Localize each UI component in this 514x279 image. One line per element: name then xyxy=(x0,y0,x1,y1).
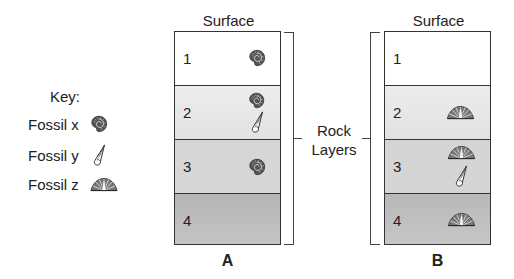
column-a-label: A xyxy=(174,252,281,270)
bracket-b xyxy=(370,32,380,245)
key-item-fossil-y: Fossil y xyxy=(28,145,106,165)
ammonite-icon xyxy=(248,158,266,176)
layer-2: 2 xyxy=(385,85,490,139)
key-item-fossil-x: Fossil x xyxy=(28,114,108,134)
key-title: Key: xyxy=(50,88,80,105)
rock-layers-label: Rock Layers xyxy=(304,121,364,159)
layer-number: 3 xyxy=(393,158,401,175)
fan-shell-icon xyxy=(447,145,476,160)
rock-label-line1: Rock xyxy=(304,121,364,140)
rock-column-b: 1 2 3 4 xyxy=(384,31,491,245)
layer-3: 3 xyxy=(385,139,490,193)
layer-4: 4 xyxy=(175,193,280,244)
layer-number: 4 xyxy=(183,212,191,229)
layer-number: 2 xyxy=(393,104,401,121)
column-a-surface-label: Surface xyxy=(175,12,282,29)
layer-number: 1 xyxy=(393,50,401,67)
bracket-a-tick xyxy=(294,138,302,139)
rock-label-line2: Layers xyxy=(304,140,364,159)
layer-4: 4 xyxy=(385,193,490,244)
layer-number: 3 xyxy=(183,158,191,175)
layer-number: 2 xyxy=(183,104,191,121)
bracket-b-tick xyxy=(362,138,370,139)
layer-1: 1 xyxy=(175,32,280,85)
key-item-fossil-z: Fossil z xyxy=(28,174,118,194)
ammonite-icon xyxy=(90,115,108,133)
key-label: Fossil x xyxy=(28,116,90,133)
layer-number: 4 xyxy=(393,212,401,229)
key-label: Fossil z xyxy=(28,176,90,193)
key-label: Fossil y xyxy=(28,147,90,164)
layer-number: 1 xyxy=(183,50,191,67)
fan-shell-icon xyxy=(447,212,476,227)
fan-shell-icon xyxy=(90,177,118,192)
rock-column-a: 1 2 3 4 xyxy=(174,31,281,245)
column-b-surface-label: Surface xyxy=(385,12,492,29)
cone-shell-icon xyxy=(251,111,264,133)
fan-shell-icon xyxy=(446,105,475,120)
bracket-a xyxy=(284,32,294,245)
ammonite-icon xyxy=(248,92,265,109)
layer-3: 3 xyxy=(175,139,280,193)
cone-shell-icon xyxy=(455,165,468,187)
layer-1: 1 xyxy=(385,32,490,85)
ammonite-icon xyxy=(248,49,266,67)
cone-shell-icon xyxy=(93,144,106,166)
layer-2: 2 xyxy=(175,85,280,139)
column-b-label: B xyxy=(384,252,491,270)
